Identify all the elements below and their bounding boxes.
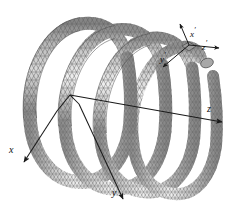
x-prime-axis-label: x′ [190,27,196,39]
coil-diagram-svg [0,0,231,218]
y-axis-label: y [112,188,116,198]
z-prime-mark: ′ [206,39,208,48]
x-prime-mark: ′ [194,26,196,35]
x-axis-label: x [9,145,13,155]
y-prime-axis-label: y′ [160,52,166,64]
z-axis-label: z [207,104,211,114]
coil-front-strands [30,58,217,194]
coil-back-strands [30,23,201,140]
y-prime-mark: ′ [164,51,166,60]
helical-coil-figure: x y z x′ y′ z′ [0,0,231,218]
z-prime-axis-label: z′ [202,40,207,52]
